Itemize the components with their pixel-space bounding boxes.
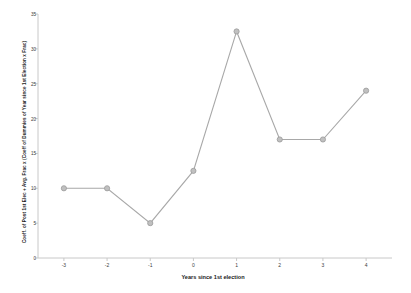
x-axis-title: Years since 1st election [38, 274, 388, 280]
x-axis-tick-label: 2 [270, 262, 290, 268]
data-series-line [64, 31, 366, 223]
data-point-marker [191, 168, 196, 173]
x-axis-tick-label: 4 [356, 262, 376, 268]
x-axis-tick-label: -3 [54, 262, 74, 268]
data-point-marker [277, 137, 282, 142]
x-axis-tick-label: 1 [227, 262, 247, 268]
data-point-marker [320, 137, 325, 142]
chart-plot-area [0, 0, 411, 293]
data-point-marker [363, 88, 368, 93]
y-axis-title: Coeff. of Post 1st Elec + Avg. Frac x (C… [18, 12, 32, 272]
data-series-markers [61, 29, 368, 226]
data-point-marker [104, 186, 109, 191]
data-point-marker [148, 221, 153, 226]
data-point-marker [61, 186, 66, 191]
x-axis-tick-label: 3 [313, 262, 333, 268]
x-axis-tick-label: -2 [97, 262, 117, 268]
data-point-marker [234, 29, 239, 34]
x-axis-tick-label: 0 [183, 262, 203, 268]
x-axis-tick-label: -1 [140, 262, 160, 268]
chart-container: 05101520253035 -3-2-101234 Coeff. of Pos… [0, 0, 411, 293]
